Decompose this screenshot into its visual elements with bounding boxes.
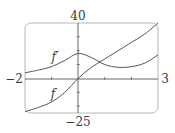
plot-frame [25,23,158,113]
x-max-label: 3 [161,72,169,86]
chart: 40 −25 −2 3 f′ f [0,0,175,133]
f-prime-label: f′ [50,50,58,64]
y-max-label: 40 [70,9,85,23]
series-f-prime [25,53,158,72]
y-min-label: −25 [65,115,90,129]
series-f [25,23,158,112]
x-min-label: −2 [5,72,23,86]
axis-ticks [52,37,132,106]
